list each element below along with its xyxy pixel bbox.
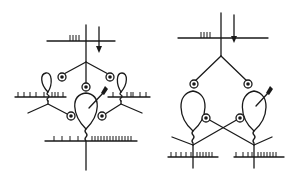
loop-left-large xyxy=(181,91,205,131)
left-diagram xyxy=(15,25,150,170)
arrow-down-icon xyxy=(96,27,102,53)
feathered-arrow-icon xyxy=(256,86,273,106)
loop-center-large xyxy=(75,93,98,129)
arrow-down-icon xyxy=(231,15,237,43)
loop-right-small xyxy=(117,73,126,92)
loop-left-small xyxy=(42,73,51,92)
top-ticks-left xyxy=(70,35,79,41)
diagram-canvas xyxy=(0,0,300,178)
diagram-svg xyxy=(0,0,300,178)
loop-right-large xyxy=(242,91,266,131)
right-diagram xyxy=(168,13,284,168)
feathered-arrow-icon xyxy=(89,86,108,108)
